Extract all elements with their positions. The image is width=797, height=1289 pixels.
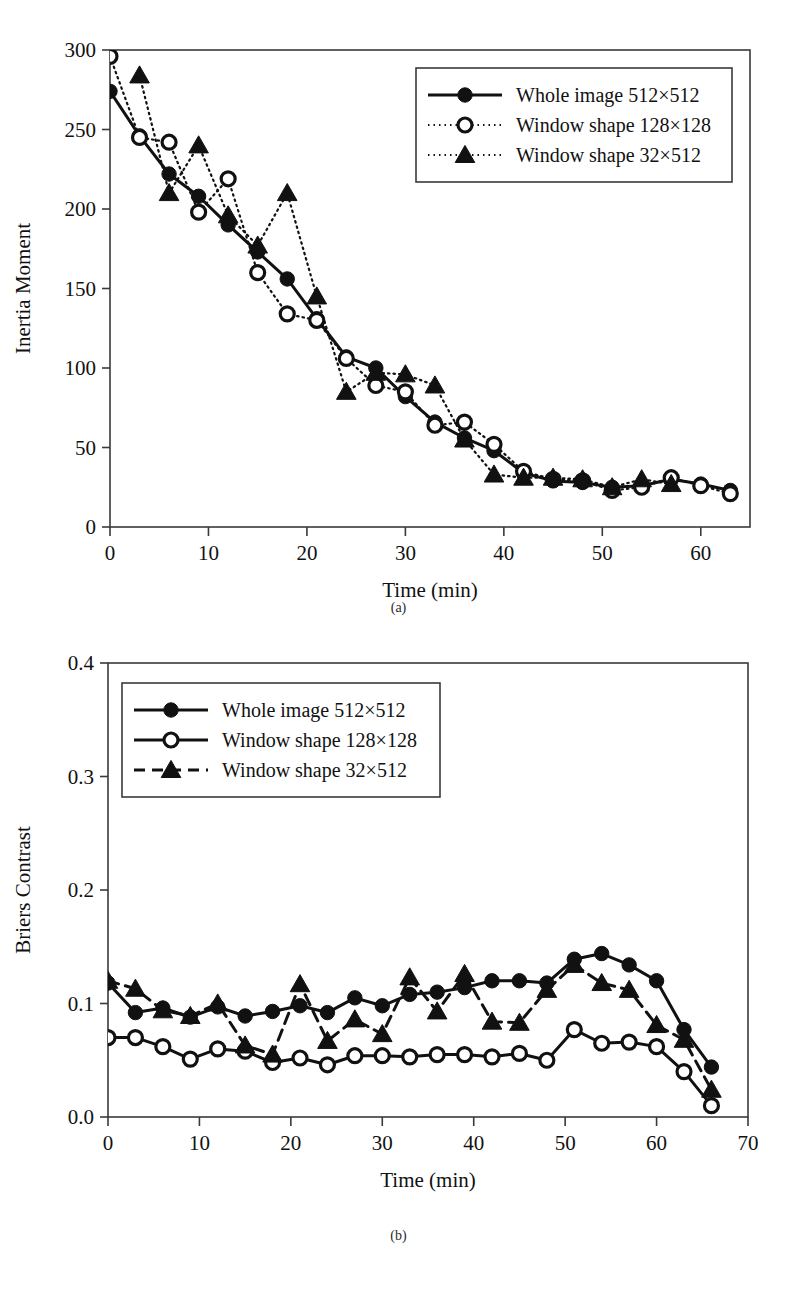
- data-point: [293, 999, 307, 1013]
- data-point: [649, 974, 663, 988]
- data-point: [345, 1010, 365, 1027]
- data-point: [290, 975, 310, 992]
- chart-b-svg: 0.00.10.20.30.4010203040506070Time (min)…: [0, 645, 797, 1289]
- data-point: [512, 974, 526, 988]
- y-tick-label: 0.2: [68, 878, 94, 902]
- x-tick-label: 60: [690, 541, 711, 565]
- chart-panel-a: 0501001502002503000102030405060Time (min…: [0, 0, 797, 645]
- y-tick-label: 0.3: [68, 765, 94, 789]
- data-point: [208, 994, 228, 1011]
- legend-sample-marker-0: [164, 703, 178, 717]
- data-point: [694, 479, 708, 493]
- y-tick-label: 200: [65, 197, 97, 221]
- data-point: [372, 1025, 392, 1042]
- data-point: [189, 136, 209, 153]
- x-tick-label: 20: [280, 1131, 301, 1155]
- data-point: [320, 1005, 334, 1019]
- x-tick-label: 0: [105, 541, 116, 565]
- data-point: [430, 1048, 444, 1062]
- data-point: [156, 1040, 170, 1054]
- x-tick-label: 10: [198, 541, 219, 565]
- y-axis: 050100150200250300: [65, 38, 111, 539]
- data-point: [263, 1045, 283, 1062]
- x-tick-label: 50: [555, 1131, 576, 1155]
- y-axis-title: Inertia Moment: [11, 223, 35, 354]
- y-axis-title: Briers Contrast: [11, 826, 35, 954]
- data-point: [235, 1036, 255, 1053]
- data-point: [622, 1035, 636, 1049]
- data-point: [307, 287, 327, 304]
- legend-sample-marker-1: [458, 118, 472, 132]
- data-point: [162, 167, 176, 181]
- data-point: [595, 1036, 609, 1050]
- chart-panel-b: 0.00.10.20.30.4010203040506070Time (min)…: [0, 645, 797, 1289]
- legend: Whole image 512×512Window shape 128×128W…: [122, 683, 440, 797]
- data-point: [457, 415, 471, 429]
- data-point: [128, 1005, 142, 1019]
- data-point: [485, 1050, 499, 1064]
- x-axis: 0102030405060: [105, 527, 712, 565]
- x-tick-label: 10: [189, 1131, 210, 1155]
- data-point: [430, 985, 444, 999]
- data-point: [337, 382, 357, 399]
- x-tick-label: 40: [493, 541, 514, 565]
- data-point: [218, 206, 238, 223]
- legend-sample-marker-1: [164, 733, 178, 747]
- data-point: [130, 66, 150, 83]
- data-point: [348, 1049, 362, 1063]
- x-tick-label: 20: [296, 541, 317, 565]
- y-tick-label: 150: [65, 277, 97, 301]
- legend-label-0: Whole image 512×512: [516, 84, 699, 107]
- data-point: [293, 1051, 307, 1065]
- x-tick-label: 30: [395, 541, 416, 565]
- legend-label-1: Window shape 128×128: [222, 729, 417, 752]
- data-point: [403, 987, 417, 1001]
- data-point: [650, 1040, 664, 1054]
- data-point: [211, 1042, 225, 1056]
- legend-label-1: Window shape 128×128: [516, 114, 711, 137]
- y-tick-label: 0.4: [68, 651, 95, 675]
- data-point: [398, 385, 412, 399]
- data-point: [310, 313, 324, 327]
- x-tick-label: 30: [372, 1131, 393, 1155]
- data-point: [540, 1053, 554, 1067]
- data-point: [348, 991, 362, 1005]
- data-point: [101, 1031, 115, 1045]
- data-point: [704, 1060, 718, 1074]
- legend-label-2: Window shape 32×512: [222, 759, 407, 782]
- data-point: [192, 205, 206, 219]
- y-tick-label: 100: [65, 356, 97, 380]
- data-point: [221, 172, 235, 186]
- data-point: [457, 980, 471, 994]
- legend: Whole image 512×512Window shape 128×128W…: [416, 68, 732, 182]
- data-point: [425, 376, 445, 393]
- x-tick-label: 60: [646, 1131, 667, 1155]
- data-point: [455, 964, 475, 981]
- y-tick-label: 0.1: [68, 992, 94, 1016]
- data-point: [595, 946, 609, 960]
- data-point: [458, 1048, 472, 1062]
- subfigure-label-b: (b): [0, 1228, 797, 1244]
- data-point: [280, 272, 294, 286]
- y-tick-label: 0.0: [68, 1105, 94, 1129]
- data-point: [485, 974, 499, 988]
- series-markers-1: [101, 1023, 718, 1113]
- data-point: [159, 184, 179, 201]
- data-point: [339, 351, 353, 365]
- y-tick-label: 250: [65, 118, 97, 142]
- data-point: [400, 968, 420, 985]
- data-point: [320, 1058, 334, 1072]
- data-point: [567, 1023, 581, 1037]
- data-point: [375, 999, 389, 1013]
- data-point: [277, 184, 297, 201]
- data-point: [375, 1049, 389, 1063]
- subfigure-label-a: (a): [0, 600, 797, 616]
- data-point: [265, 1004, 279, 1018]
- data-point: [723, 487, 737, 501]
- x-axis-title: Time (min): [380, 1168, 475, 1192]
- series-markers-2: [98, 955, 721, 1097]
- x-tick-label: 40: [463, 1131, 484, 1155]
- data-point: [622, 958, 636, 972]
- x-tick-label: 0: [103, 1131, 114, 1155]
- data-point: [592, 973, 612, 990]
